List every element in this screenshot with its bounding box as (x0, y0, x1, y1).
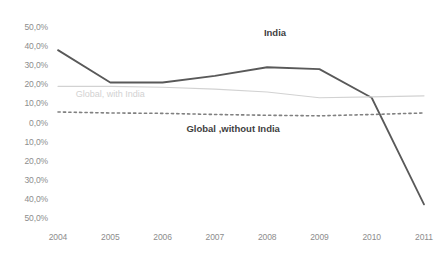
series-label: Global ,without India (186, 123, 279, 134)
series-line (58, 112, 424, 116)
line-chart: 50,0%40,0%30,0%20,0%10,0%0,0%10,0%20,0%3… (0, 0, 437, 261)
series-label: India (264, 27, 286, 38)
series-label: Global, with India (76, 89, 145, 99)
